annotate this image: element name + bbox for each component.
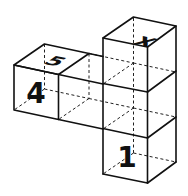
label-1: 1 [117, 141, 136, 174]
label-x: X [127, 34, 162, 50]
label-5: 5 [38, 53, 71, 69]
cube-diagram: X 5 4 1 [0, 0, 188, 196]
cube-figure: X 5 4 1 [0, 0, 188, 196]
label-4: 4 [26, 77, 45, 110]
